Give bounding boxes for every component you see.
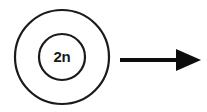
diploid-cell-group: 2n: [15, 10, 109, 104]
nucleus-ploidy-label: 2n: [53, 48, 70, 65]
arrow-head-icon: [176, 49, 201, 71]
diagram-canvas: 2n: [0, 0, 207, 112]
cell-division-diagram: 2n: [0, 0, 207, 112]
process-arrow-group: [120, 49, 201, 71]
